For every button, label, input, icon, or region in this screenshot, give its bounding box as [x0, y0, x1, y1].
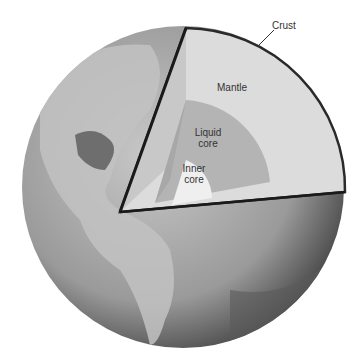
label-inner-core: Inner core	[179, 163, 209, 185]
label-liquid-core: Liquid core	[190, 127, 226, 149]
label-crust: Crust	[272, 20, 296, 31]
crust-leader-line	[258, 30, 274, 46]
label-mantle: Mantle	[217, 82, 247, 93]
